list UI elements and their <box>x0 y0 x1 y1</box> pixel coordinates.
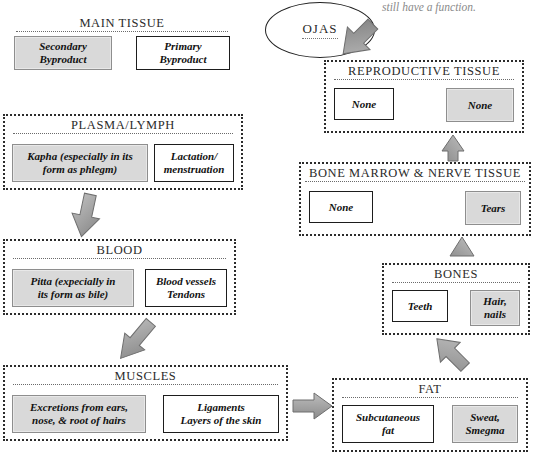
box-primary-byproduct-fat: Subcutaneous fat <box>342 405 434 443</box>
box-line-1: Sweat, <box>470 411 500 424</box>
box-primary-byproduct-blood: Blood vessels Tendons <box>145 269 227 307</box>
section-blood: BLOOD Pitta (expecially in its form as b… <box>3 239 236 315</box>
title-rule <box>342 397 518 398</box>
box-line-1: Tears <box>481 202 506 215</box>
section-title-fat: FAT <box>334 380 526 396</box>
box-line-2: its form as bile) <box>38 288 109 301</box>
section-title-muscles: MUSCLES <box>5 367 286 383</box>
section-title-plasma-lymph: PLASMA/LYMPH <box>5 116 241 132</box>
box-line-1: None <box>329 201 353 214</box>
box-primary-byproduct-marrow: None <box>309 191 373 223</box>
box-line-1: Secondary <box>39 40 87 53</box>
box-line-1: Blood vessels <box>156 275 216 288</box>
box-line-1: Teeth <box>408 300 433 313</box>
box-secondary-byproduct-blood: Pitta (expecially in its form as bile) <box>12 269 134 307</box>
box-secondary-byproduct-plasma: Kapha (especially in its form as phlegm) <box>12 144 148 182</box>
title-rule <box>16 31 228 32</box>
section-main-tissue: MAIN TISSUE Secondary Byproduct Primary … <box>8 14 236 72</box>
box-line-2: fat <box>382 424 394 437</box>
section-muscles: MUSCLES Excretions from ears, nose, & ro… <box>3 365 288 441</box>
title-rule <box>334 79 514 80</box>
box-line-1: Kapha (especially in its <box>27 150 132 163</box>
box-line-1: Excretions from ears, <box>30 401 128 414</box>
box-secondary-byproduct-reproductive: None <box>446 88 514 122</box>
box-line-2: form as phlegm) <box>43 163 118 176</box>
section-title-bones: BONES <box>384 265 528 281</box>
box-secondary-byproduct-bones: Hair, nails <box>470 290 520 326</box>
box-primary-byproduct-plasma: Lactation/ menstruation <box>154 144 234 182</box>
title-rule <box>392 282 520 283</box>
box-line-2: Smegma <box>465 424 504 437</box>
title-rule <box>13 133 233 134</box>
box-line-2: Layers of the skin <box>181 414 262 427</box>
box-line-1: Primary <box>164 40 201 53</box>
section-title-reproductive-tissue: REPRODUCTIVE TISSUE <box>326 62 522 78</box>
box-secondary-byproduct-muscles: Excretions from ears, nose, & root of ha… <box>12 395 146 433</box>
arrow-bones-to-marrow <box>448 236 476 260</box>
arrow-blood-to-muscles <box>108 314 164 366</box>
arrow-marrow-to-reproductive <box>440 134 466 162</box>
box-line-2: nails <box>484 308 506 321</box>
box-line-2: Byproduct <box>39 53 86 66</box>
arrow-fat-to-bones <box>428 330 474 376</box>
box-secondary-byproduct-main-tissue: Secondary Byproduct <box>14 36 112 70</box>
box-primary-byproduct-muscles: Ligaments Layers of the skin <box>163 395 279 433</box>
box-primary-byproduct-bones: Teeth <box>392 290 448 322</box>
box-line-1: None <box>468 99 492 112</box>
box-primary-byproduct-main-tissue: Primary Byproduct <box>136 36 230 70</box>
section-title-bone-marrow-nerve-tissue: BONE MARROW & NERVE TISSUE <box>301 164 529 180</box>
arrow-muscles-to-fat <box>292 390 334 422</box>
title-rule <box>13 258 226 259</box>
box-line-2: Byproduct <box>159 53 206 66</box>
section-plasma-lymph: PLASMA/LYMPH Kapha (especially in its fo… <box>3 114 243 190</box>
box-line-1: Lactation/ <box>171 150 217 163</box>
section-title-main-tissue: MAIN TISSUE <box>8 14 236 30</box>
box-line-1: Ligaments <box>197 401 245 414</box>
title-rule <box>305 181 525 182</box>
box-line-1: Pitta (expecially in <box>31 275 116 288</box>
box-line-1: Subcutaneous <box>356 411 420 424</box>
box-primary-byproduct-reproductive: None <box>334 88 394 120</box>
box-secondary-byproduct-marrow: Tears <box>465 191 521 225</box>
box-line-2: nose, & root of hairs <box>32 414 126 427</box>
box-line-1: None <box>352 98 376 111</box>
section-bones: BONES Teeth Hair, nails <box>382 263 530 335</box>
box-secondary-byproduct-fat: Sweat, Smegma <box>452 405 518 443</box>
box-line-2: menstruation <box>164 163 225 176</box>
section-reproductive-tissue: REPRODUCTIVE TISSUE None None <box>324 60 524 133</box>
title-rule <box>13 384 278 385</box>
note-text: still have a function. <box>382 1 476 13</box>
arrow-reproductive-to-ojas <box>330 16 386 62</box>
section-fat: FAT Subcutaneous fat Sweat, Smegma <box>332 378 528 452</box>
section-title-blood: BLOOD <box>5 241 234 257</box>
section-bone-marrow-nerve-tissue: BONE MARROW & NERVE TISSUE None Tears <box>299 162 531 236</box>
box-line-2: Tendons <box>167 288 205 301</box>
box-line-1: Hair, <box>483 295 507 308</box>
arrow-plasma-to-blood <box>66 190 106 240</box>
